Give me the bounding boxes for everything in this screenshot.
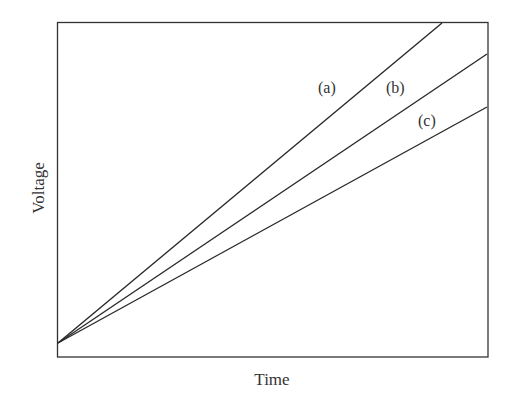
series-b-line xyxy=(58,54,487,343)
series-b-label: (b) xyxy=(386,79,405,97)
plot-frame xyxy=(58,23,489,358)
series-a-label: (a) xyxy=(318,79,336,97)
x-axis-label: Time xyxy=(254,370,289,389)
series-a-line xyxy=(58,23,442,343)
y-axis-label: Voltage xyxy=(29,162,48,214)
series-c-line xyxy=(58,107,487,343)
series-c-label: (c) xyxy=(418,112,436,130)
line-chart: (a) (b) (c) Time Voltage xyxy=(0,0,509,403)
